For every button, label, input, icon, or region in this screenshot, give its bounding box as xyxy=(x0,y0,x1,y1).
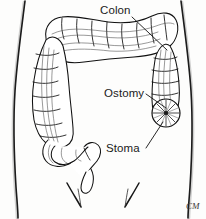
stoma-site xyxy=(152,99,180,127)
anatomy-illustration: Colon Ostomy Stoma CM xyxy=(0,0,206,219)
illustration-canvas: Colon Ostomy Stoma CM xyxy=(0,0,206,219)
inguinal-creases xyxy=(67,183,139,207)
label-ostomy: Ostomy xyxy=(104,87,144,99)
label-colon: Colon xyxy=(100,4,131,16)
artist-signature: CM xyxy=(186,201,200,211)
leader-line-stoma xyxy=(146,122,163,148)
label-stoma: Stoma xyxy=(106,142,140,154)
stoma-opening xyxy=(164,111,168,115)
